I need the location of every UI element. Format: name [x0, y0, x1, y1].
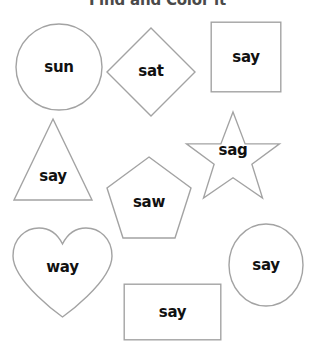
square-icon — [210, 21, 282, 93]
rectangle-icon — [123, 283, 222, 341]
shape-heart-way[interactable]: way — [11, 226, 114, 319]
shape-circle-sun[interactable]: sun — [14, 22, 104, 112]
shape-rectangle-say[interactable]: say — [123, 283, 222, 341]
shape-square-say[interactable]: say — [210, 21, 282, 93]
star-icon — [184, 110, 282, 202]
shape-triangle-say[interactable]: say — [12, 117, 94, 202]
triangle-icon — [12, 117, 94, 202]
worksheet-canvas: Find and Color it sun sat say say sag — [0, 0, 315, 356]
oval-icon — [227, 222, 305, 308]
circle-icon — [14, 22, 104, 112]
shape-pentagon-saw[interactable]: saw — [105, 155, 193, 240]
page-title: Find and Color it — [0, 0, 315, 9]
shape-oval-say[interactable]: say — [227, 222, 305, 308]
diamond-icon — [105, 26, 197, 118]
shape-diamond-sat[interactable]: sat — [105, 26, 197, 118]
shape-star-sag[interactable]: sag — [184, 110, 282, 202]
heart-icon — [11, 226, 114, 319]
pentagon-icon — [105, 155, 193, 240]
